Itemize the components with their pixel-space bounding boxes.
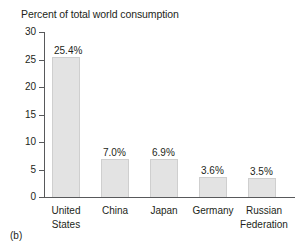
category-label-line: States xyxy=(38,218,94,232)
category-label-line: Germany xyxy=(185,204,241,218)
category-label-russian-federation: Russian Federation xyxy=(234,204,294,231)
plot-area: 0 5 10 15 20 25 30 25.4% xyxy=(44,32,295,197)
y-tick-label: 0 xyxy=(30,190,36,203)
y-tick-label: 15 xyxy=(25,108,36,121)
category-label-germany: Germany xyxy=(185,204,241,218)
y-tick-mark xyxy=(39,170,44,171)
bar-value-label: 25.4% xyxy=(54,44,82,57)
category-label-line: United xyxy=(38,204,94,218)
bar-value-label: 6.9% xyxy=(152,146,175,159)
y-tick-mark xyxy=(39,87,44,88)
y-tick-mark xyxy=(39,142,44,143)
y-tick-mark xyxy=(39,60,44,61)
bar-value-label: 3.5% xyxy=(250,165,273,178)
bar-china[interactable]: 7.0% xyxy=(101,159,129,198)
chart-title: Percent of total world consumption xyxy=(21,8,179,21)
bar-japan[interactable]: 6.9% xyxy=(150,159,178,197)
x-axis-line xyxy=(44,197,295,198)
category-label-line: Japan xyxy=(136,204,192,218)
figure: Percent of total world consumption 0 5 1… xyxy=(0,0,295,250)
bar-germany[interactable]: 3.6% xyxy=(199,177,227,197)
category-label-line: China xyxy=(87,204,143,218)
y-tick-label: 25 xyxy=(25,53,36,66)
y-tick-label: 5 xyxy=(30,163,36,176)
y-tick-mark xyxy=(39,32,44,33)
category-label-line: Russian xyxy=(234,204,294,218)
figure-caption: (b) xyxy=(10,229,22,242)
category-label-china: China xyxy=(87,204,143,218)
category-label-japan: Japan xyxy=(136,204,192,218)
category-label-united-states: United States xyxy=(38,204,94,231)
y-tick-mark xyxy=(39,115,44,116)
category-label-line: Federation xyxy=(234,218,294,232)
y-tick-mark xyxy=(39,197,44,198)
y-tick-label: 20 xyxy=(25,80,36,93)
bar-russian-federation[interactable]: 3.5% xyxy=(248,178,276,197)
bar-value-label: 3.6% xyxy=(201,164,224,177)
y-tick-label: 10 xyxy=(25,135,36,148)
bar-value-label: 7.0% xyxy=(103,146,126,159)
y-axis-line xyxy=(44,32,45,197)
y-tick-label: 30 xyxy=(25,25,36,38)
bar-united-states[interactable]: 25.4% xyxy=(52,57,80,197)
